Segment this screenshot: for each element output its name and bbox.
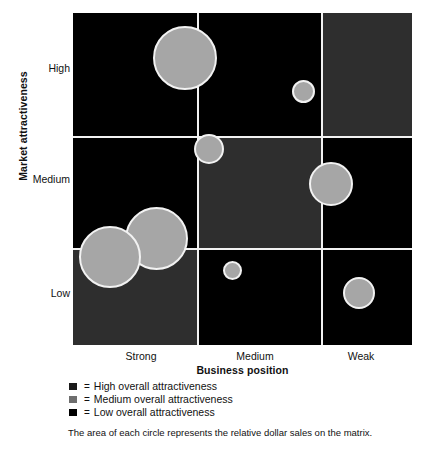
matrix-cell-medium-high [198,13,322,137]
bubble-medium-medium-upper[interactable] [194,134,224,164]
bubble-strong-low[interactable] [79,226,141,288]
y-tick-high: High [10,62,70,74]
matrix-cell-medium-low [198,249,322,345]
ge-matrix-plot-area [73,13,412,345]
y-axis-tick-labels: High Medium Low [8,0,70,345]
legend-swatch-medium-icon [68,395,78,404]
bubble-medium-high[interactable] [292,80,315,103]
y-tick-low: Low [10,287,70,299]
legend-item-low: = Low overall attractiveness [68,407,368,419]
legend: = High overall attractiveness = Medium o… [68,381,368,420]
bubble-weak-low[interactable] [343,277,375,309]
x-axis-title: Business position [73,364,412,376]
bubble-strong-high[interactable] [153,26,217,90]
matrix-cell-weak-high [322,13,412,137]
x-axis-tick-labels: Strong Medium Weak [73,350,412,364]
legend-equals-low: = [84,407,90,418]
bubble-medium-low[interactable] [223,261,242,280]
legend-swatch-low-icon [68,408,78,417]
bubble-weak-medium[interactable] [309,162,353,206]
x-tick-medium: Medium [205,350,305,363]
legend-equals-medium: = [84,394,90,405]
legend-label-medium: Medium overall attractiveness [94,394,233,405]
gridline-horizontal-1 [73,136,412,138]
legend-equals-high: = [84,381,90,392]
legend-item-high: = High overall attractiveness [68,381,368,393]
legend-label-high: High overall attractiveness [94,381,217,392]
legend-swatch-high-icon [68,382,78,391]
y-tick-medium: Medium [10,173,70,185]
x-tick-strong: Strong [91,350,191,363]
legend-note: The area of each circle represents the r… [68,427,372,439]
x-tick-weak: Weak [311,350,411,363]
legend-label-low: Low overall attractiveness [94,407,215,418]
legend-item-medium: = Medium overall attractiveness [68,394,368,406]
